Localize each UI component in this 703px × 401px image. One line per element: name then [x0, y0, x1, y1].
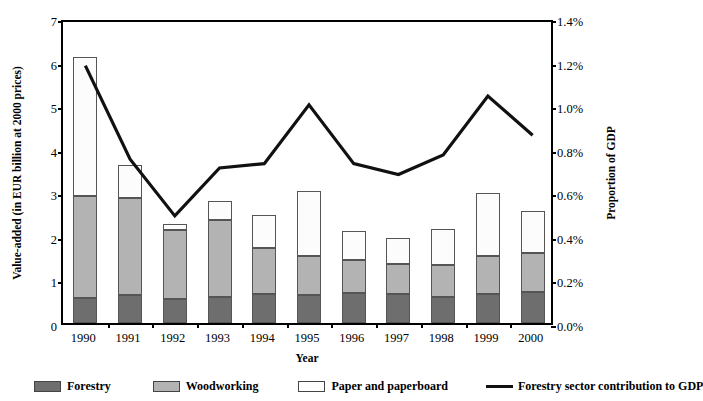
y-axis-left-tick-label: 0 — [51, 320, 57, 335]
gdp-line-series — [63, 22, 555, 327]
x-axis-tick-mark — [242, 323, 244, 328]
legend-swatch-woodworking-icon — [153, 381, 180, 392]
y-axis-right-tick-label: 0.0% — [557, 320, 583, 335]
legend-label-paper: Paper and paperboard — [331, 379, 447, 394]
x-axis-title: Year — [61, 352, 553, 364]
y-axis-title-left: Value-added (in EUR billion at 2000 pric… — [6, 20, 28, 325]
y-axis-left-tick-label: 4 — [51, 145, 57, 160]
x-axis-tick-mark — [421, 323, 423, 328]
x-axis-tick-mark — [466, 323, 468, 328]
y-axis-left-tick-label: 1 — [51, 276, 57, 291]
legend-item-woodworking: Woodworking — [153, 379, 259, 394]
gdp-line-path — [85, 66, 532, 216]
y-axis-left-tick-label: 3 — [51, 189, 57, 204]
legend-label-gdp-line: Forestry sector contribution to GDP — [518, 379, 703, 394]
y-axis-right-tick-label: 0.6% — [557, 189, 583, 204]
y-axis-left-tick-label: 6 — [51, 58, 57, 73]
x-axis-tick-label-1992: 1992 — [160, 331, 185, 346]
x-axis-tick-label-1994: 1994 — [250, 331, 275, 346]
x-axis-tick-label-1997: 1997 — [384, 331, 409, 346]
chart-legend: Forestry Woodworking Paper and paperboar… — [26, 377, 616, 395]
y-axis-left-tick-label: 7 — [51, 15, 57, 30]
x-axis-tick-mark — [108, 323, 110, 328]
legend-swatch-paper-icon — [298, 381, 325, 392]
y-axis-right-tick-label: 1.0% — [557, 102, 583, 117]
y-axis-title-left-text: Value-added (in EUR billion at 2000 pric… — [11, 66, 23, 280]
x-axis-tick-label-1996: 1996 — [339, 331, 364, 346]
x-axis-tick-mark — [197, 323, 199, 328]
y-axis-right-tick-label: 0.2% — [557, 276, 583, 291]
y-axis-title-right-text: Proportion of GDP — [605, 126, 617, 220]
x-axis-tick-mark — [331, 323, 333, 328]
x-axis-tick-label-2000: 2000 — [518, 331, 543, 346]
y-axis-right-tick-label: 1.2% — [557, 58, 583, 73]
x-axis-tick-label-1991: 1991 — [116, 331, 141, 346]
x-axis-tick-label-1993: 1993 — [205, 331, 230, 346]
x-axis-tick-mark — [152, 323, 154, 328]
legend-label-forestry: Forestry — [67, 379, 111, 394]
x-axis-tick-label-1995: 1995 — [295, 331, 320, 346]
x-axis-tick-label-1999: 1999 — [473, 331, 498, 346]
plot-area: 01234567 0.0%0.2%0.4%0.6%0.8%1.0%1.2%1.4… — [61, 20, 553, 325]
y-axis-left-tick-label: 5 — [51, 102, 57, 117]
y-axis-left-tick-label: 2 — [51, 232, 57, 247]
x-axis-tick-mark — [287, 323, 289, 328]
x-axis-tick-mark — [510, 323, 512, 328]
legend-item-paper: Paper and paperboard — [298, 379, 447, 394]
y-axis-title-right: Proportion of GDP — [600, 20, 622, 325]
y-axis-right-tick-label: 1.4% — [557, 15, 583, 30]
y-axis-right-tick-label: 0.4% — [557, 232, 583, 247]
legend-item-gdp-line: Forestry sector contribution to GDP — [486, 379, 703, 394]
x-axis-tick-label-1990: 1990 — [71, 331, 96, 346]
legend-swatch-forestry-icon — [34, 381, 61, 392]
legend-swatch-gdp-line-icon — [486, 385, 513, 388]
x-axis-tick-label-1998: 1998 — [429, 331, 454, 346]
legend-item-forestry: Forestry — [34, 379, 111, 394]
y-axis-right-tick-label: 0.8% — [557, 145, 583, 160]
x-axis-tick-mark — [376, 323, 378, 328]
legend-label-woodworking: Woodworking — [186, 379, 259, 394]
